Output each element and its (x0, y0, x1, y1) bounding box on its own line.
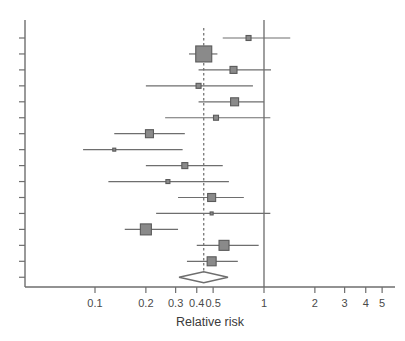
effect-estimate-marker (166, 180, 170, 184)
study-row (165, 115, 270, 120)
study-row (114, 130, 185, 138)
x-tick-label-0.3: 0.3 (168, 297, 183, 309)
effect-estimate-marker (182, 163, 188, 169)
summary-diamond (179, 272, 228, 283)
x-tick-label-0.4: 0.4 (189, 297, 204, 309)
forest-plot-canvas: 0.10.20.30.40.512345 Relative risk (0, 0, 405, 341)
x-tick-label-3: 3 (342, 297, 348, 309)
effect-estimate-marker (246, 36, 251, 41)
study-row (199, 98, 264, 106)
x-tick-labels: 0.10.20.30.40.512345 (87, 297, 385, 309)
x-tick-label-4: 4 (363, 297, 369, 309)
effect-estimate-marker (140, 224, 151, 235)
x-tick-label-1: 1 (261, 297, 267, 309)
reference-lines (204, 20, 264, 287)
x-tick-label-2: 2 (312, 297, 318, 309)
study-row (189, 46, 217, 62)
study-row (197, 240, 259, 250)
study-row (187, 257, 238, 266)
study-row (108, 180, 229, 184)
x-tick-label-0.2: 0.2 (138, 297, 153, 309)
x-tick-label-0.5: 0.5 (205, 297, 220, 309)
effect-estimate-marker (230, 66, 237, 73)
study-row (146, 163, 223, 169)
effect-estimate-marker (210, 212, 213, 215)
effect-estimate-marker (231, 98, 239, 106)
x-axis-ticks (95, 287, 382, 293)
effect-estimate-marker (196, 83, 201, 88)
x-axis-title: Relative risk (176, 315, 245, 329)
study-row (223, 36, 291, 41)
study-row (146, 83, 253, 88)
study-row (156, 212, 270, 215)
effect-estimate-marker (208, 194, 216, 202)
effect-estimate-marker (219, 240, 229, 250)
summary-diamond-group (179, 272, 228, 283)
study-row (83, 148, 183, 151)
forest-plot: 0.10.20.30.40.512345 Relative risk (0, 0, 405, 341)
study-rows (83, 36, 290, 266)
study-row (199, 66, 271, 73)
effect-estimate-marker (113, 148, 116, 151)
x-tick-label-0.1: 0.1 (87, 297, 102, 309)
effect-estimate-marker (214, 115, 219, 120)
effect-estimate-marker (145, 130, 153, 138)
effect-estimate-marker (207, 257, 216, 266)
study-row (125, 224, 178, 235)
x-tick-label-5: 5 (379, 297, 385, 309)
study-row (178, 194, 244, 202)
effect-estimate-marker (196, 46, 212, 62)
y-axis-ticks (19, 38, 25, 277)
